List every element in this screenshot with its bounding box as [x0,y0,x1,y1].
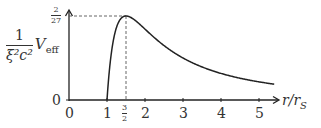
y-tick-label-zero: 0 [52,93,61,107]
chart-canvas [0,0,321,128]
x-axis-label: r/rS [282,92,307,111]
peak-denominator: 27 [51,17,61,25]
y-tick-label-peak: 2 27 [51,6,61,25]
y-label-denominator: ξ²c² [6,48,33,63]
peak-numerator: 2 [54,6,59,14]
x-tick-label-three-halves: 3 2 [122,104,127,123]
x-label-sub: S [300,100,307,111]
y-label-var: V [35,35,46,53]
y-axis-label: 1 ξ²c² Veff [6,28,59,62]
x-tick-label-5: 5 [255,106,264,120]
x-tick-label-3: 3 [179,106,188,120]
x-tick-label-2: 2 [141,106,150,120]
x-tick-label-4: 4 [217,106,226,120]
y-label-sub: eff [46,44,59,55]
x-label-var: r/r [282,92,300,108]
x-tick-label-1: 1 [103,106,112,120]
y-label-numerator: 1 [15,28,24,43]
half-numerator: 3 [122,104,127,112]
half-denominator: 2 [122,115,127,123]
x-tick-label-0: 0 [65,106,74,120]
veff-curve [107,16,274,100]
